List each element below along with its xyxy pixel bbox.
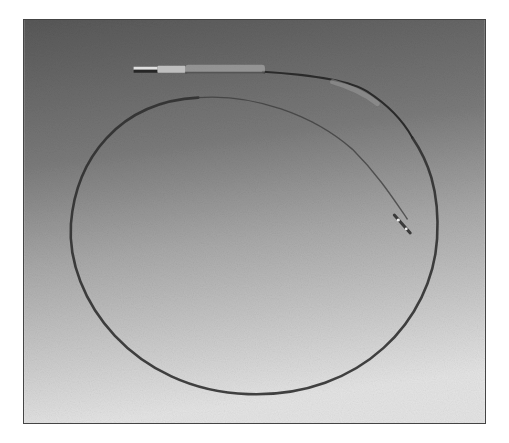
catheter-photo bbox=[24, 20, 485, 423]
photo-frame bbox=[23, 19, 486, 424]
background bbox=[24, 20, 485, 423]
